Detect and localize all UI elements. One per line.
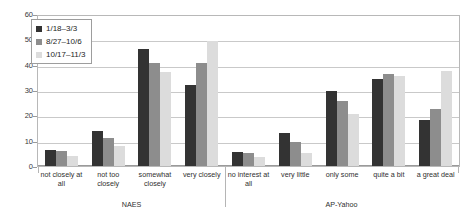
legend-label: 10/17–11/3	[46, 50, 85, 59]
legend-swatch-icon	[36, 26, 42, 32]
legend-label: 8/27–10/6	[46, 37, 82, 46]
group-separator	[38, 167, 39, 173]
bar	[232, 152, 243, 166]
bar	[419, 120, 430, 166]
bar	[67, 156, 78, 166]
bar	[326, 91, 337, 166]
bar-group	[132, 16, 179, 166]
legend-swatch-icon	[36, 39, 42, 45]
y-tick-label: 30	[5, 87, 33, 95]
y-tick-label: 40	[5, 62, 33, 70]
bar	[430, 109, 441, 166]
y-tick-label: 10	[5, 138, 33, 146]
bar	[92, 131, 103, 167]
bar	[348, 114, 359, 166]
bar	[290, 142, 301, 167]
group-label-naes: NAES	[38, 200, 225, 209]
bar	[160, 72, 171, 166]
legend-item: 8/27–10/6	[36, 36, 85, 47]
y-tick-label: 0	[5, 163, 33, 171]
legend-item: 1/18–3/3	[36, 23, 85, 34]
bar-groups	[38, 16, 459, 166]
bar-group	[365, 16, 412, 166]
legend-label: 1/18–3/3	[46, 24, 77, 33]
bar	[103, 138, 114, 166]
bar	[45, 150, 56, 166]
bar-group	[272, 16, 319, 166]
group-labels: NAES AP-Yahoo	[38, 167, 459, 211]
group-separator	[458, 167, 459, 173]
bar	[114, 146, 125, 166]
y-axis: 60 50 40 30 20 10 0	[0, 15, 33, 167]
bar	[372, 79, 383, 167]
bar	[383, 74, 394, 166]
y-tick-label: 50	[5, 36, 33, 44]
bar	[138, 49, 149, 167]
y-tick-mark	[33, 167, 37, 168]
bar	[337, 101, 348, 167]
bar	[56, 151, 67, 167]
bar	[185, 85, 196, 166]
y-tick-label: 60	[5, 11, 33, 19]
bar	[196, 63, 207, 167]
bar	[243, 153, 254, 166]
bar-group	[178, 16, 225, 166]
bar	[207, 41, 218, 167]
legend-swatch-icon	[36, 52, 42, 58]
group-label-ap-yahoo: AP-Yahoo	[225, 200, 458, 209]
bar	[441, 71, 452, 166]
bar-chart: 60 50 40 30 20 10 0 not closely at allno…	[0, 0, 466, 213]
bar-group	[319, 16, 366, 166]
bar	[301, 153, 312, 166]
y-tick-label: 20	[5, 112, 33, 120]
bar-group	[412, 16, 459, 166]
legend-item: 10/17–11/3	[36, 49, 85, 60]
legend: 1/18–3/38/27–10/610/17–11/3	[31, 19, 92, 64]
bar	[149, 63, 160, 166]
bar-group	[225, 16, 272, 166]
bar	[279, 133, 290, 166]
bar	[394, 76, 405, 167]
bar	[254, 157, 265, 166]
